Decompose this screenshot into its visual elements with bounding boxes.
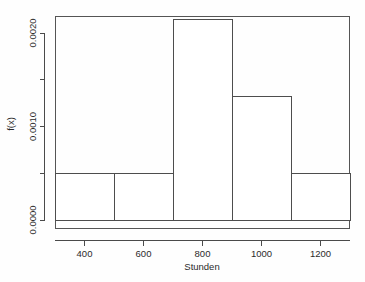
histogram-bar (233, 96, 292, 220)
histogram-bar (292, 174, 351, 221)
x-tick-label: 800 (195, 248, 211, 259)
x-tick-label: 400 (77, 248, 93, 259)
x-axis-ticks: 40060080010001200 (77, 241, 332, 260)
y-tick-label: 0.0010 (27, 112, 38, 141)
x-tick-label: 600 (136, 248, 152, 259)
y-axis-title: f(x) (5, 117, 16, 131)
histogram-bar (115, 174, 174, 221)
histogram-plot: 40060080010001200 0.00000.00100.0020 Stu… (0, 0, 365, 282)
y-axis-ticks: 0.00000.00100.0020 (27, 18, 45, 234)
x-tick-label: 1200 (310, 248, 331, 259)
y-tick-label: 0.0020 (27, 18, 38, 47)
bars-group (56, 19, 351, 220)
histogram-bar (174, 19, 233, 220)
x-axis-title: Stunden (184, 261, 219, 272)
y-tick-label: 0.0000 (27, 205, 38, 234)
histogram-figure: 40060080010001200 0.00000.00100.0020 Stu… (0, 0, 365, 282)
x-tick-label: 1000 (251, 248, 272, 259)
histogram-bar (56, 174, 115, 221)
